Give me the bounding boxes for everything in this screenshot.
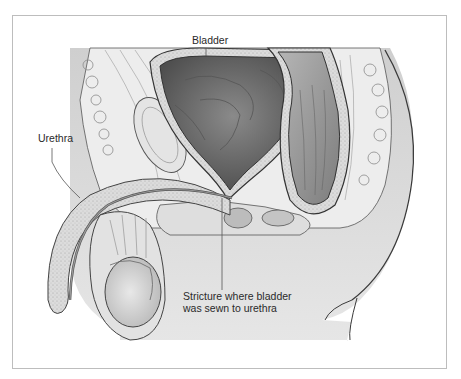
stricture-label-line2: was sewn to urethra bbox=[183, 302, 292, 314]
stricture-label: Stricture where bladder was sewn to uret… bbox=[183, 290, 292, 314]
stricture-label-line1: Stricture where bladder bbox=[183, 290, 292, 302]
urethra-label: Urethra bbox=[38, 132, 73, 144]
pelvis-cross-section-illustration bbox=[0, 0, 461, 379]
testis bbox=[105, 257, 161, 327]
bladder-label: Bladder bbox=[192, 34, 228, 46]
scrotum bbox=[90, 212, 165, 340]
